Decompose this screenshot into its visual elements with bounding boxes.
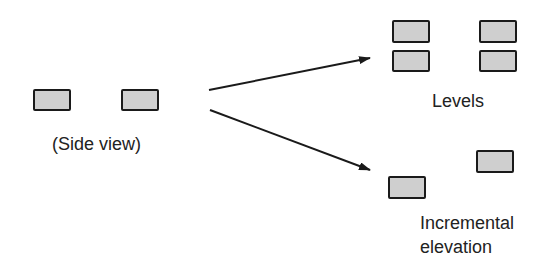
side-view-label: (Side view) — [52, 133, 141, 155]
arrow-to-levels — [209, 58, 370, 90]
levels-block-bottom-left — [392, 50, 430, 72]
incremental-label: Incremental — [420, 212, 514, 234]
levels-block-bottom-right — [479, 50, 517, 72]
levels-block-top-left — [392, 20, 430, 43]
elevation-block-upper — [476, 150, 514, 173]
arrow-to-incremental-elevation — [210, 110, 370, 170]
side-view-block-right — [121, 89, 159, 111]
levels-label: Levels — [432, 90, 484, 112]
side-view-block-left — [33, 89, 71, 111]
elevation-block-lower — [388, 176, 426, 199]
elevation-label: elevation — [420, 236, 492, 258]
levels-block-top-right — [479, 20, 517, 43]
